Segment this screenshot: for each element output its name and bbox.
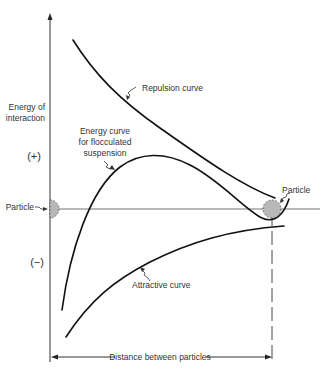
y-axis-label-line1: Energy of (9, 102, 46, 112)
distance-left-arrow-icon (51, 355, 58, 360)
y-axis-label-line2: interaction (6, 113, 45, 123)
left-particle-leader (35, 207, 44, 209)
left-particle-arrow-icon (43, 207, 48, 211)
flocculated-label-line1: Energy curve (80, 126, 130, 136)
y-axis (48, 13, 53, 362)
left-particle (50, 200, 59, 218)
flocculated-label-line2: for flocculated (79, 137, 132, 147)
interaction-energy-diagram: Energy of interaction (+) (−) Repulsion … (0, 0, 328, 374)
repulsion-label: Repulsion curve (142, 83, 203, 93)
repulsion-leader (128, 87, 136, 98)
attractive-arrow-icon (140, 267, 145, 272)
positive-sign: (+) (27, 150, 41, 162)
repulsion-curve (73, 40, 275, 198)
flocculated-leader (104, 161, 110, 169)
flocculated-arrow-icon (109, 165, 115, 170)
distance-right-arrow-icon (265, 355, 272, 360)
right-particle-label: Particle (282, 185, 311, 195)
flocculated-label-line3: suspension (83, 148, 126, 158)
y-axis-arrow-icon (48, 13, 53, 20)
negative-sign: (−) (30, 256, 44, 268)
right-particle-arrow-icon (280, 198, 284, 203)
x-axis-label: Distance between particles (109, 352, 211, 362)
right-particle (263, 200, 281, 218)
attractive-label: Attractive curve (132, 280, 191, 290)
left-particle-label: Particle (6, 202, 35, 212)
